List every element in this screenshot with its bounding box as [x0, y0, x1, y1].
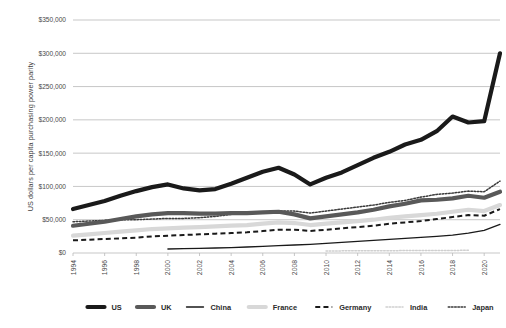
y-tick-label: $200,000	[38, 116, 66, 123]
x-tick-label: 2010	[323, 260, 330, 275]
legend: USUKChinaFranceGermanyIndiaJapan	[88, 303, 495, 312]
legend-label-china[interactable]: China	[211, 303, 232, 312]
x-axis-ticks: 1994199619982000200220042006200820102012…	[70, 253, 488, 275]
x-tick-label: 1998	[133, 260, 140, 275]
y-tick-label: $300,000	[38, 50, 66, 57]
y-tick-label: $250,000	[38, 83, 66, 90]
x-tick-label: 2014	[386, 260, 393, 275]
series-line-india	[326, 250, 468, 251]
series-lines	[73, 53, 500, 251]
legend-label-germany[interactable]: Germany	[339, 303, 372, 312]
y-axis-title: US dollars per capita purchasing power p…	[26, 61, 35, 211]
legend-label-uk[interactable]: UK	[161, 303, 172, 312]
x-tick-label: 2004	[228, 260, 235, 275]
x-tick-label: 2016	[418, 260, 425, 275]
line-chart: $0$50,000$100,000$150,000$200,000$250,00…	[0, 0, 506, 328]
y-tick-label: $350,000	[38, 16, 66, 23]
x-tick-label: 1996	[101, 260, 108, 275]
x-tick-label: 2000	[164, 260, 171, 275]
legend-label-india[interactable]: India	[410, 303, 428, 312]
legend-label-france[interactable]: France	[273, 303, 297, 312]
legend-label-japan[interactable]: Japan	[472, 303, 494, 312]
y-tick-label: $0	[59, 249, 67, 256]
legend-label-us[interactable]: US	[112, 303, 122, 312]
x-tick-label: 2018	[449, 260, 456, 275]
x-tick-label: 2006	[259, 260, 266, 275]
y-tick-label: $50,000	[42, 216, 66, 223]
x-tick-label: 2020	[481, 260, 488, 275]
x-tick-label: 2012	[354, 260, 361, 275]
x-tick-label: 2008	[291, 260, 298, 275]
x-tick-label: 2002	[196, 260, 203, 275]
y-tick-label: $100,000	[38, 183, 66, 190]
chart-container: $0$50,000$100,000$150,000$200,000$250,00…	[0, 0, 506, 328]
x-tick-label: 1994	[70, 260, 77, 275]
series-line-us	[73, 53, 500, 209]
y-tick-label: $150,000	[38, 150, 66, 157]
y-axis-title-group: US dollars per capita purchasing power p…	[26, 61, 35, 211]
